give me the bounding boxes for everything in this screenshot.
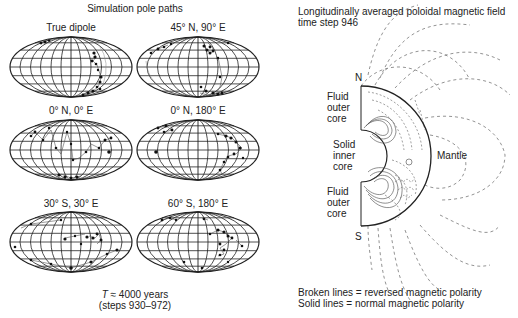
label-solid-inner-core: Solid inner core — [333, 139, 355, 172]
map-60s-180e — [137, 212, 259, 272]
map-label-45n-90e: 45° N, 90° E — [170, 22, 225, 33]
map-label-30s-30e: 30° S, 30° E — [44, 198, 99, 209]
map-0n-0e — [10, 120, 132, 180]
label-line: Fluid — [327, 186, 350, 197]
map-45n-90e — [137, 37, 259, 97]
label-line: outer — [327, 197, 350, 208]
left-panel-title: Simulation pole paths — [87, 3, 183, 14]
label-south: S — [355, 231, 362, 242]
map-label-0n-0e: 0° N, 0° E — [49, 105, 93, 116]
map-label-0n-180e: 0° N, 180° E — [170, 105, 225, 116]
label-line: Solid — [333, 139, 355, 150]
map-true-dipole — [10, 37, 132, 97]
label-line: core — [333, 161, 355, 172]
label-line: outer — [327, 102, 350, 113]
legend-broken-lines: Broken lines = reversed magnetic polarit… — [298, 287, 482, 298]
caption-steps: (steps 930–972) — [99, 300, 171, 311]
map-label-60s-180e: 60° S, 180° E — [168, 198, 228, 209]
right-panel-subtitle: time step 946 — [298, 17, 358, 28]
label-fluid-outer-core-top: Fluid outer core — [327, 91, 350, 124]
label-line: core — [327, 208, 350, 219]
map-0n-180e — [137, 120, 259, 180]
label-line: core — [327, 113, 350, 124]
caption-years: ≈ 4000 years — [108, 289, 169, 300]
label-north: N — [355, 72, 362, 83]
legend-solid-lines: Solid lines = normal magnetic polarity — [298, 298, 464, 309]
label-fluid-outer-core-bottom: Fluid outer core — [327, 186, 350, 219]
map-30s-30e — [10, 212, 132, 272]
right-panel-title: Longitudinally averaged poloidal magneti… — [298, 6, 505, 17]
core-diagram — [361, 5, 510, 300]
caption-duration: T ≈ 4000 years — [102, 289, 169, 300]
label-mantle: Mantle — [437, 150, 467, 161]
label-line: inner — [333, 150, 355, 161]
label-line: Fluid — [327, 91, 350, 102]
map-label-true-dipole: True dipole — [46, 22, 96, 33]
